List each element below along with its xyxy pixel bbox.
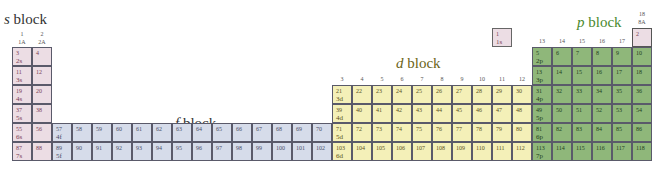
atomic-number: 68: [276, 126, 282, 132]
element-cell-21: 213d: [332, 85, 352, 104]
element-cell-81: 816p: [532, 123, 552, 142]
element-cell-83: 83: [572, 123, 592, 142]
atomic-number: 109: [456, 145, 465, 151]
element-cell-69: 69: [292, 123, 312, 142]
element-cell-62: 62: [152, 123, 172, 142]
element-cell-30: 30: [512, 85, 532, 104]
group-label-2: 22A: [32, 30, 52, 46]
atomic-number: 8: [596, 50, 599, 56]
atomic-number: 75: [416, 126, 422, 132]
element-cell-40: 40: [352, 104, 372, 123]
element-cell-78: 78: [472, 123, 492, 142]
element-cell-82: 82: [552, 123, 572, 142]
atomic-number: 35: [616, 88, 622, 94]
element-cell-59: 59: [92, 123, 112, 142]
element-cell-68: 68: [272, 123, 292, 142]
atomic-number: 55: [16, 126, 22, 132]
element-cell-48: 48: [512, 104, 532, 123]
element-cell-93: 93: [132, 142, 152, 161]
element-cell-1: 11s: [492, 28, 512, 47]
group-label-18: 188A: [632, 10, 652, 26]
element-cell-13: 133p: [532, 66, 552, 85]
element-cell-25: 25: [412, 85, 432, 104]
atomic-number: 58: [76, 126, 82, 132]
element-cell-100: 100: [272, 142, 292, 161]
element-cell-47: 47: [492, 104, 512, 123]
element-cell-106: 106: [392, 142, 412, 161]
atomic-number: 106: [396, 145, 405, 151]
element-cell-3: 32s: [12, 47, 32, 66]
atomic-number: 28: [476, 88, 482, 94]
atomic-number: 72: [356, 126, 362, 132]
element-cell-17: 17: [612, 66, 632, 85]
orbital-label: 4d: [336, 114, 351, 122]
d-block-title: d block: [396, 55, 441, 71]
element-cell-36: 36: [632, 85, 652, 104]
atomic-number: 74: [396, 126, 402, 132]
atomic-number: 2: [636, 31, 639, 37]
element-cell-26: 26: [432, 85, 452, 104]
element-cell-54: 54: [632, 104, 652, 123]
element-cell-5: 52p: [532, 47, 552, 66]
element-cell-70: 70: [312, 123, 332, 142]
element-cell-56: 56: [32, 123, 52, 142]
element-cell-116: 116: [592, 142, 612, 161]
orbital-label: 5p: [536, 114, 551, 122]
element-cell-87: 877s: [12, 142, 32, 161]
element-cell-6: 6: [552, 47, 572, 66]
element-cell-39: 394d: [332, 104, 352, 123]
element-cell-111: 111: [492, 142, 512, 161]
atomic-number: 88: [36, 145, 42, 151]
atomic-number: 57: [56, 126, 62, 132]
atomic-number: 45: [456, 107, 462, 113]
atomic-number: 59: [96, 126, 102, 132]
p-block-title: p block: [577, 14, 622, 30]
atomic-number: 100: [276, 145, 285, 151]
atomic-number: 61: [136, 126, 142, 132]
atomic-number: 89: [56, 145, 62, 151]
element-cell-107: 107: [412, 142, 432, 161]
atomic-number: 27: [456, 88, 462, 94]
atomic-number: 12: [36, 69, 42, 75]
atomic-number: 48: [516, 107, 522, 113]
element-cell-117: 117: [612, 142, 632, 161]
element-cell-37: 375s: [12, 104, 32, 123]
atomic-number: 9: [616, 50, 619, 56]
atomic-number: 82: [556, 126, 562, 132]
element-cell-73: 73: [372, 123, 392, 142]
element-cell-35: 35: [612, 85, 632, 104]
atomic-number: 11: [16, 69, 22, 75]
atomic-number: 25: [416, 88, 422, 94]
element-cell-113: 1137p: [532, 142, 552, 161]
element-cell-27: 27: [452, 85, 472, 104]
atomic-number: 13: [536, 69, 542, 75]
element-cell-77: 77: [452, 123, 472, 142]
element-cell-75: 75: [412, 123, 432, 142]
atomic-number: 44: [436, 107, 442, 113]
atomic-number: 36: [636, 88, 642, 94]
element-cell-90: 90: [72, 142, 92, 161]
element-cell-66: 66: [232, 123, 252, 142]
atomic-number: 7: [576, 50, 579, 56]
atomic-number: 54: [636, 107, 642, 113]
atomic-number: 43: [416, 107, 422, 113]
atomic-number: 97: [216, 145, 222, 151]
element-cell-79: 79: [492, 123, 512, 142]
orbital-label: 6d: [336, 152, 351, 160]
atomic-number: 33: [576, 88, 582, 94]
element-cell-16: 16: [592, 66, 612, 85]
element-cell-71: 715d: [332, 123, 352, 142]
element-cell-64: 64: [192, 123, 212, 142]
orbital-label: 2s: [16, 57, 31, 65]
atomic-number: 4: [36, 50, 39, 56]
atomic-number: 80: [516, 126, 522, 132]
atomic-number: 67: [256, 126, 262, 132]
atomic-number: 83: [576, 126, 582, 132]
element-cell-50: 50: [552, 104, 572, 123]
atomic-number: 60: [116, 126, 122, 132]
atomic-number: 69: [296, 126, 302, 132]
atomic-number: 117: [616, 145, 625, 151]
atomic-number: 66: [236, 126, 242, 132]
atomic-number: 110: [476, 145, 485, 151]
atomic-number: 73: [376, 126, 382, 132]
